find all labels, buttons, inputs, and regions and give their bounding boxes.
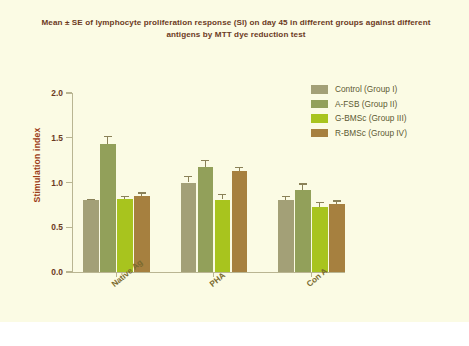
error-bar-cap bbox=[201, 160, 209, 161]
legend-item: G-BMSc (Group III) bbox=[311, 111, 407, 126]
bar bbox=[117, 199, 133, 272]
bar bbox=[329, 204, 345, 272]
x-axis-line bbox=[72, 272, 345, 273]
bar bbox=[295, 190, 311, 272]
legend-item: A-FSB (Group II) bbox=[311, 97, 407, 112]
legend-swatch bbox=[311, 85, 328, 94]
y-axis-tick bbox=[66, 271, 72, 272]
bar bbox=[100, 144, 116, 272]
error-bar-line bbox=[107, 136, 108, 144]
y-axis-tick-label: 0.0 bbox=[29, 267, 63, 277]
bar-fill bbox=[312, 207, 328, 272]
bar-fill bbox=[181, 183, 197, 273]
legend-swatch bbox=[311, 114, 328, 123]
bar-fill bbox=[215, 200, 231, 272]
error-bar-cap bbox=[121, 196, 129, 197]
y-axis-tick bbox=[66, 227, 72, 228]
legend-swatch bbox=[311, 100, 328, 109]
legend-label: A-FSB (Group II) bbox=[335, 99, 397, 109]
y-axis-line bbox=[72, 93, 73, 273]
bar-chart-plot: 0.00.51.01.52.0 Stimulation index Native… bbox=[0, 0, 469, 322]
slide-canvas: Mean ± SE of lymphocyte proliferation re… bbox=[0, 0, 469, 322]
error-bar-cap bbox=[87, 199, 95, 200]
y-axis-tick-label: 0.5 bbox=[29, 222, 63, 232]
bar bbox=[83, 200, 99, 272]
legend-label: Control (Group I) bbox=[335, 84, 397, 94]
slide-outer-margin bbox=[0, 322, 469, 346]
y-axis-tick-label: 2.0 bbox=[29, 88, 63, 98]
error-bar-cap bbox=[316, 202, 324, 203]
error-bar-cap bbox=[218, 194, 226, 195]
bar-fill bbox=[117, 199, 133, 272]
legend-item: R-BMSc (Group IV) bbox=[311, 126, 407, 141]
bar-fill bbox=[232, 171, 248, 272]
legend-swatch bbox=[311, 129, 328, 138]
bar bbox=[232, 171, 248, 272]
error-bar-cap bbox=[282, 196, 290, 197]
error-bar-cap bbox=[299, 183, 307, 184]
bar bbox=[278, 200, 294, 272]
error-bar-cap bbox=[184, 176, 192, 177]
bar-fill bbox=[83, 200, 99, 272]
bar bbox=[312, 207, 328, 272]
bar bbox=[215, 200, 231, 272]
bar-fill bbox=[278, 200, 294, 272]
x-axis-category-label: PHA bbox=[208, 271, 227, 289]
legend-item: Control (Group I) bbox=[311, 82, 407, 97]
bar-fill bbox=[295, 190, 311, 272]
legend-label: G-BMSc (Group III) bbox=[335, 113, 406, 123]
y-axis-tick bbox=[66, 182, 72, 183]
bar bbox=[181, 183, 197, 273]
error-bar-cap bbox=[235, 167, 243, 168]
bar-fill bbox=[329, 204, 345, 272]
bar bbox=[198, 167, 214, 272]
error-bar-cap bbox=[138, 192, 146, 193]
error-bar-cap bbox=[333, 200, 341, 201]
error-bar-cap bbox=[104, 136, 112, 137]
legend-label: R-BMSc (Group IV) bbox=[335, 128, 407, 138]
bar-fill bbox=[100, 144, 116, 272]
chart-legend: Control (Group I)A-FSB (Group II)G-BMSc … bbox=[311, 82, 407, 140]
y-axis-tick bbox=[66, 137, 72, 138]
y-axis-title: Stimulation index bbox=[32, 115, 42, 215]
y-axis-tick bbox=[66, 92, 72, 93]
bar-fill bbox=[198, 167, 214, 272]
